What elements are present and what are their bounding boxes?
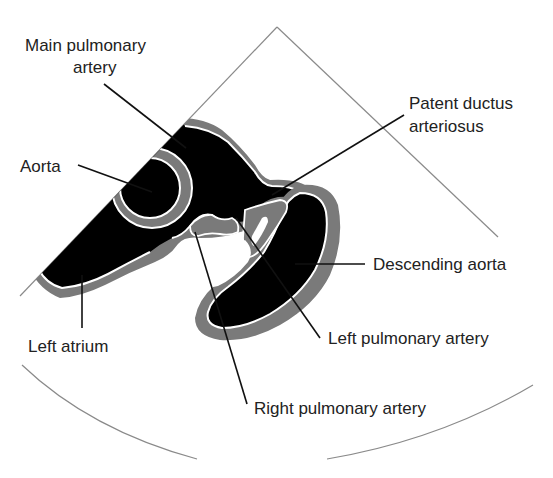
label-patent-ductus-1: Patent ductus xyxy=(409,94,513,113)
label-main-pulmonary-artery-1: Main pulmonary xyxy=(25,36,146,55)
leader-patent-ductus xyxy=(272,115,404,195)
sector-arc-right xyxy=(327,385,533,459)
sector-arc-left xyxy=(22,365,197,459)
label-aorta: Aorta xyxy=(20,157,61,176)
label-left-pulmonary-artery: Left pulmonary artery xyxy=(328,329,489,348)
echo-diagram: Main pulmonary artery Aorta Left atrium … xyxy=(0,0,553,478)
label-descending-aorta: Descending aorta xyxy=(373,255,507,274)
anatomy xyxy=(10,118,340,340)
label-left-atrium: Left atrium xyxy=(28,337,108,356)
label-main-pulmonary-artery-2: artery xyxy=(73,58,117,77)
label-patent-ductus-2: arteriosus xyxy=(409,117,484,136)
aorta-lumen xyxy=(120,158,180,218)
leader-main-pulmonary-artery xyxy=(104,84,186,148)
label-right-pulmonary-artery: Right pulmonary artery xyxy=(254,399,426,418)
